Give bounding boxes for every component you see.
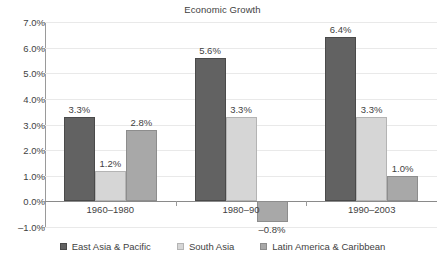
bar-value-label: 2.8% (131, 117, 153, 128)
gridline (45, 73, 437, 74)
y-axis-tick-label: 2.0% (3, 145, 45, 156)
y-axis-tick-label: 5.0% (3, 68, 45, 79)
y-axis-tick (41, 176, 45, 177)
plot-area: 3.3%1.2%2.8%5.6%3.3%–0.8%6.4%3.3%1.0% (45, 22, 437, 227)
zero-line (45, 201, 437, 202)
y-axis-tick (41, 73, 45, 74)
y-axis-tick-label: 3.0% (3, 119, 45, 130)
bar (226, 117, 257, 202)
y-axis-tick (41, 99, 45, 100)
legend-item[interactable]: Latin America & Caribbean (260, 241, 385, 252)
bar (64, 117, 95, 202)
gridline (45, 227, 437, 228)
legend-item-label: Latin America & Caribbean (272, 241, 385, 252)
bar (126, 130, 157, 202)
legend-item-label: South Asia (189, 241, 234, 252)
y-axis-tick (41, 201, 45, 202)
bar-value-label: 1.2% (100, 158, 122, 169)
y-axis-tick-label: 1.0% (3, 170, 45, 181)
chart-legend: East Asia & PacificSouth AsiaLatin Ameri… (0, 241, 445, 252)
gridline (45, 99, 437, 100)
bar (356, 117, 387, 202)
bar-value-label: 3.3% (230, 104, 252, 115)
bar (195, 58, 226, 202)
bar-value-label: 1.0% (392, 163, 414, 174)
bar (257, 201, 288, 222)
legend-swatch-icon (60, 243, 67, 250)
bar (387, 176, 418, 202)
x-axis-group-separator (306, 201, 307, 206)
y-axis-tick (41, 227, 45, 228)
y-axis-tick (41, 125, 45, 126)
legend-item-label: East Asia & Pacific (72, 241, 151, 252)
legend-swatch-icon (177, 243, 184, 250)
y-axis-tick-label: 0.0% (3, 196, 45, 207)
y-axis-tick-label: 4.0% (3, 93, 45, 104)
y-axis-tick (41, 22, 45, 23)
y-axis-tick (41, 150, 45, 151)
x-axis-category-label: 1960–1980 (87, 204, 135, 215)
bar-value-label: 5.6% (199, 45, 221, 56)
legend-item[interactable]: South Asia (177, 241, 234, 252)
bar-value-label: –0.8% (259, 224, 286, 235)
bar (325, 37, 356, 201)
legend-swatch-icon (260, 243, 267, 250)
gridline (45, 22, 437, 23)
bar (95, 171, 126, 202)
y-axis-tick-label: 6.0% (3, 42, 45, 53)
y-axis-tick (41, 48, 45, 49)
y-axis: 7.0%6.0%5.0%4.0%3.0%2.0%1.0%0.0%–1.0% (0, 22, 45, 227)
legend-item[interactable]: East Asia & Pacific (60, 241, 151, 252)
bar-value-label: 6.4% (330, 24, 352, 35)
chart-title: Economic Growth (0, 4, 445, 15)
y-axis-tick-label: –1.0% (3, 222, 45, 233)
x-axis-category-label: 1980–90 (223, 204, 260, 215)
x-axis-group-separator (176, 201, 177, 206)
bar-value-label: 3.3% (69, 104, 91, 115)
economic-growth-bar-chart: Economic Growth 7.0%6.0%5.0%4.0%3.0%2.0%… (0, 0, 445, 264)
gridline (45, 48, 437, 49)
y-axis-tick-label: 7.0% (3, 17, 45, 28)
x-axis-category-label: 1990–2003 (348, 204, 396, 215)
bar-value-label: 3.3% (361, 104, 383, 115)
